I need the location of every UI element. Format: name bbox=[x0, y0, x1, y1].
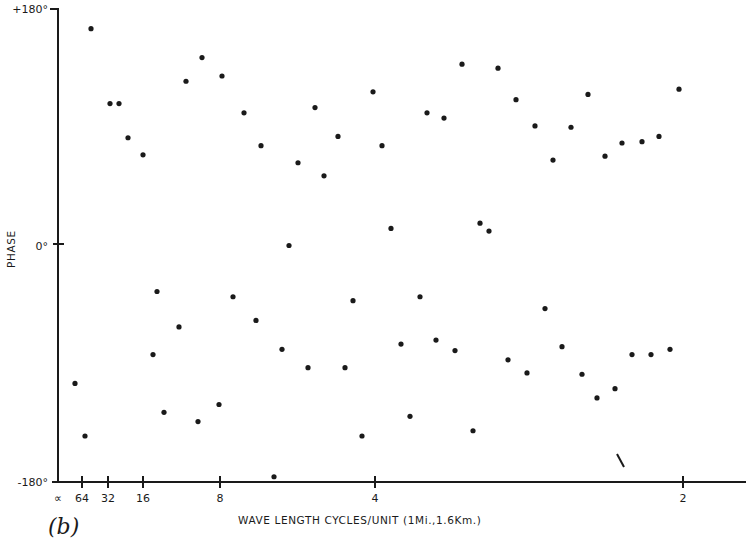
data-point bbox=[398, 341, 403, 346]
data-point bbox=[183, 79, 188, 84]
data-point bbox=[82, 433, 87, 438]
data-point bbox=[107, 101, 112, 106]
data-point bbox=[258, 143, 263, 148]
x-tick-label: 32 bbox=[101, 492, 115, 505]
data-point bbox=[656, 134, 661, 139]
data-point bbox=[253, 318, 258, 323]
data-point bbox=[505, 357, 510, 362]
data-point bbox=[88, 26, 93, 31]
data-point bbox=[612, 386, 617, 391]
data-point bbox=[542, 306, 547, 311]
data-point bbox=[279, 347, 284, 352]
data-point bbox=[585, 92, 590, 97]
data-point bbox=[116, 101, 121, 106]
data-point bbox=[359, 433, 364, 438]
data-point bbox=[532, 123, 537, 128]
y-tick-labels: +180°0°-180° bbox=[12, 3, 48, 489]
data-point bbox=[579, 372, 584, 377]
data-point bbox=[195, 419, 200, 424]
data-point bbox=[176, 324, 181, 329]
x-axis-title: WAVE LENGTH CYCLES/UNIT (1Mi.,1.6Km.) bbox=[238, 514, 482, 526]
data-point bbox=[629, 352, 634, 357]
data-point bbox=[441, 115, 446, 120]
data-point bbox=[140, 152, 145, 157]
data-point bbox=[417, 294, 422, 299]
x-tick-label: ∝ bbox=[54, 492, 62, 505]
data-point bbox=[459, 62, 464, 67]
y-axis-title: PHASE bbox=[5, 230, 17, 268]
x-tick-label: 64 bbox=[75, 492, 89, 505]
x-ticks: ∝643216842 bbox=[54, 476, 686, 505]
y-tick-label: +180° bbox=[12, 3, 48, 16]
data-point bbox=[470, 428, 475, 433]
data-point bbox=[72, 381, 77, 386]
data-point bbox=[524, 370, 529, 375]
data-point bbox=[271, 474, 276, 479]
x-tick-label: 4 bbox=[372, 492, 379, 505]
data-point bbox=[379, 143, 384, 148]
data-point bbox=[550, 157, 555, 162]
y-tick-label: 0° bbox=[36, 240, 49, 253]
x-tick-label: 2 bbox=[680, 492, 687, 505]
data-point bbox=[452, 348, 457, 353]
data-point bbox=[125, 135, 130, 140]
phase-scatter-chart: +180°0°-180° ∝643216842 PHASE WAVE LENGT… bbox=[0, 0, 752, 550]
data-point bbox=[342, 365, 347, 370]
data-point bbox=[305, 365, 310, 370]
data-point bbox=[619, 140, 624, 145]
data-point bbox=[199, 55, 204, 60]
data-point bbox=[667, 347, 672, 352]
data-points bbox=[72, 26, 681, 479]
data-point bbox=[161, 410, 166, 415]
data-point bbox=[150, 352, 155, 357]
data-point bbox=[407, 414, 412, 419]
data-point bbox=[433, 338, 438, 343]
data-point bbox=[350, 298, 355, 303]
data-point bbox=[388, 226, 393, 231]
data-point bbox=[286, 243, 291, 248]
panel-label: (b) bbox=[48, 514, 79, 539]
data-point bbox=[154, 289, 159, 294]
data-point bbox=[594, 395, 599, 400]
data-point bbox=[216, 402, 221, 407]
data-point bbox=[241, 110, 246, 115]
data-point bbox=[639, 139, 644, 144]
data-point bbox=[312, 105, 317, 110]
data-point bbox=[513, 97, 518, 102]
data-point bbox=[486, 228, 491, 233]
data-point bbox=[568, 125, 573, 130]
data-point bbox=[321, 173, 326, 178]
data-point bbox=[295, 160, 300, 165]
x-tick-label: 8 bbox=[217, 492, 224, 505]
data-point bbox=[230, 294, 235, 299]
stray-stroke-mark bbox=[617, 454, 624, 467]
data-point bbox=[559, 344, 564, 349]
data-point bbox=[219, 73, 224, 78]
data-point bbox=[477, 221, 482, 226]
y-tick-label: -180° bbox=[18, 476, 48, 489]
data-point bbox=[602, 154, 607, 159]
data-point bbox=[648, 352, 653, 357]
x-tick-label: 16 bbox=[136, 492, 150, 505]
data-point bbox=[495, 66, 500, 71]
data-point bbox=[370, 89, 375, 94]
data-point bbox=[676, 87, 681, 92]
data-point bbox=[424, 110, 429, 115]
data-point bbox=[335, 134, 340, 139]
